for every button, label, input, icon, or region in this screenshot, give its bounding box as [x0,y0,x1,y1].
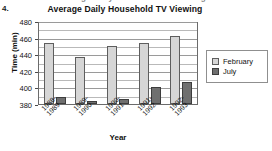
legend-label: February [223,57,253,66]
legend-swatch-february [212,58,219,65]
plot-area [38,22,198,105]
y-tick-label: 440 [6,51,32,60]
cropped-header-text: Average Daily Household TV Viewing [58,0,208,2]
bar-group [39,23,71,104]
bar-group [102,23,134,104]
y-tick-label: 480 [6,18,32,27]
y-tick-label: 380 [6,101,32,110]
y-tick-label: 420 [6,68,32,77]
bar-group [165,23,197,104]
bar-february-1992-1993 [170,36,180,104]
y-tick-label: 460 [6,35,32,44]
chart-title: Average Daily Household TV Viewing [40,4,210,14]
legend-label: July [223,67,236,76]
chart-figure: Average Daily Household TV Viewing 4. Av… [0,0,272,151]
chart-legend: FebruaryJuly [206,50,268,83]
legend-item: February [212,57,263,66]
y-tick-mark [35,105,38,106]
bar-group [71,23,103,104]
y-tick-label: 400 [6,84,32,93]
legend-swatch-july [212,68,219,75]
legend-item: July [212,67,263,76]
item-number: 4. [2,4,9,13]
bar-groups [39,23,197,104]
bar-group [134,23,166,104]
x-axis-label: Year [38,133,198,142]
